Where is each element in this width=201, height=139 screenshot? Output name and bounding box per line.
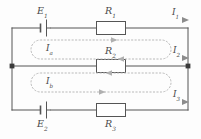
current-label-I1: I1	[172, 8, 179, 19]
battery-E1-symbol	[41, 20, 52, 37]
battery-E2-symbol	[41, 102, 52, 119]
node-right-dot	[186, 64, 191, 69]
resistor-R3-box	[97, 104, 126, 117]
circuit-diagram: E1 R1 I1 Ia R2 I2 Ib I3 E2 R3	[0, 0, 201, 139]
circuit-schematic-canvas	[0, 0, 201, 139]
source-label-E2: E2	[37, 119, 48, 132]
resistor-label-R2: R2	[105, 46, 116, 59]
mesh-label-Ia: Ia	[46, 44, 53, 55]
resistor-label-R1: R1	[105, 6, 116, 19]
resistor-R1-box	[97, 22, 126, 35]
resistor-label-R3: R3	[105, 119, 116, 132]
current-I1-arrowhead	[182, 17, 189, 23]
mesh-loop-Ia-arrow-top	[111, 37, 118, 42]
mesh-label-Ib: Ib	[46, 77, 53, 88]
mesh-loop-Ib-arrow-bottom	[99, 89, 106, 94]
source-label-E1: E1	[37, 6, 48, 19]
current-label-I3: I3	[173, 90, 180, 101]
node-left-dot	[10, 64, 15, 69]
current-label-I2: I2	[173, 46, 180, 57]
resistor-R2-box	[97, 60, 126, 73]
